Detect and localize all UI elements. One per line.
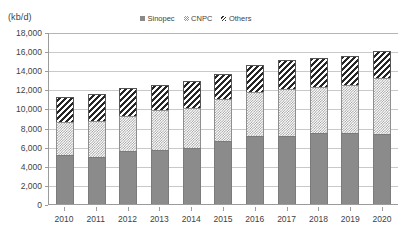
legend-swatch-others-icon <box>221 16 226 21</box>
y-axis-tick-label: 2,000 <box>0 181 42 191</box>
x-axis-tick-mark <box>64 207 65 211</box>
x-axis-tick: 2020 <box>373 207 391 224</box>
y-axis-tick-label: 4,000 <box>0 162 42 172</box>
y-axis-tick-mark <box>45 52 48 53</box>
bar-segment-cnpc <box>183 108 201 147</box>
bar-segment-cnpc <box>373 78 391 133</box>
bar-column <box>310 33 328 204</box>
bar-segment-sinopec <box>88 157 106 204</box>
bar-segment-others <box>310 58 328 87</box>
x-axis-tick: 2018 <box>309 207 327 224</box>
bar-segment-cnpc <box>278 89 296 135</box>
y-axis-tick-label: 18,000 <box>0 28 42 38</box>
bar-segment-others <box>373 51 391 79</box>
x-axis-tick: 2012 <box>119 207 137 224</box>
y-axis-tick-label: 10,000 <box>0 104 42 114</box>
y-axis-tick-label: 0 <box>0 200 42 210</box>
bar-segment-sinopec <box>278 136 296 204</box>
bar-segment-sinopec <box>119 151 137 204</box>
y-axis-tick-mark <box>45 90 48 91</box>
y-axis-tick-mark <box>45 33 48 34</box>
legend-label-sinopec: Sinopec <box>148 14 175 23</box>
bar-column <box>246 33 264 204</box>
bar-segment-sinopec <box>56 155 74 204</box>
x-axis-tick-mark <box>350 207 351 211</box>
y-axis-tick-mark <box>45 205 48 206</box>
bar-segment-sinopec <box>246 136 264 204</box>
bar-segment-cnpc <box>56 122 74 155</box>
y-axis-tick-mark <box>45 129 48 130</box>
y-axis-tick-mark <box>45 167 48 168</box>
bar-segment-others <box>119 88 137 115</box>
bar-column <box>56 33 74 204</box>
x-axis-tick-mark <box>318 207 319 211</box>
bar-segment-others <box>183 81 201 108</box>
y-axis-tick-mark <box>45 148 48 149</box>
x-axis-tick: 2015 <box>214 207 232 224</box>
x-axis-tick-mark <box>287 207 288 211</box>
bar-segment-cnpc <box>246 92 264 135</box>
x-axis-tick: 2019 <box>341 207 359 224</box>
bar-column <box>341 33 359 204</box>
bar-segment-sinopec <box>183 148 201 204</box>
bar-column <box>183 33 201 204</box>
bar-column <box>373 33 391 204</box>
bar-column <box>151 33 169 204</box>
legend-item-cnpc: CNPC <box>184 14 213 23</box>
y-axis-tick-mark <box>45 109 48 110</box>
bar-segment-others <box>278 60 296 89</box>
y-axis-unit-label: (kb/d) <box>8 12 32 22</box>
legend-item-others: Others <box>221 14 251 23</box>
legend-label-cnpc: CNPC <box>191 14 212 23</box>
bar-segment-cnpc <box>214 99 232 141</box>
x-axis-tick: 2014 <box>182 207 200 224</box>
x-axis-tick-mark <box>382 207 383 211</box>
bar-segment-cnpc <box>151 110 169 150</box>
x-axis-tick-mark <box>255 207 256 211</box>
bar-segment-cnpc <box>310 87 328 133</box>
y-axis-tick-label: 6,000 <box>0 143 42 153</box>
bar-segment-sinopec <box>310 133 328 204</box>
bar-segment-others <box>56 97 74 123</box>
x-axis-tick-mark <box>191 207 192 211</box>
bar-series-group <box>49 33 398 204</box>
bar-segment-cnpc <box>88 121 106 157</box>
bar-segment-cnpc <box>119 116 137 152</box>
bar-segment-others <box>214 74 232 100</box>
x-axis-tick-labels: 2010201120122013201420152016201720182019… <box>48 207 398 229</box>
legend-item-sinopec: Sinopec <box>140 14 175 23</box>
x-axis-tick-mark <box>96 207 97 211</box>
x-axis-tick-mark <box>128 207 129 211</box>
bar-column <box>119 33 137 204</box>
bar-segment-others <box>246 65 264 92</box>
bar-segment-sinopec <box>373 134 391 204</box>
legend-swatch-cnpc-icon <box>184 16 189 21</box>
stacked-bar-chart: (kb/d) Sinopec CNPC Others 18,00016,0001… <box>0 0 405 239</box>
y-axis-tick-label: 14,000 <box>0 66 42 76</box>
chart-legend: Sinopec CNPC Others <box>140 14 251 23</box>
y-axis-tick-label: 16,000 <box>0 47 42 57</box>
legend-swatch-sinopec-icon <box>140 16 145 21</box>
bar-segment-sinopec <box>341 133 359 204</box>
bar-column <box>278 33 296 204</box>
x-axis-tick-mark <box>159 207 160 211</box>
y-axis-tick-mark <box>45 71 48 72</box>
legend-label-others: Others <box>229 14 252 23</box>
bar-segment-others <box>151 85 169 110</box>
bar-segment-others <box>88 94 106 121</box>
bar-segment-sinopec <box>214 141 232 204</box>
x-axis-tick: 2013 <box>150 207 168 224</box>
y-axis-tick-label: 8,000 <box>0 124 42 134</box>
x-axis-tick: 2016 <box>246 207 264 224</box>
x-axis-tick: 2011 <box>87 207 105 224</box>
y-axis-tick-label: 12,000 <box>0 85 42 95</box>
y-axis-tick-mark <box>45 186 48 187</box>
x-axis-tick: 2010 <box>55 207 73 224</box>
plot-area <box>48 33 398 205</box>
x-axis-tick-mark <box>223 207 224 211</box>
bar-segment-cnpc <box>341 85 359 133</box>
bar-segment-others <box>341 56 359 85</box>
bar-column <box>88 33 106 204</box>
x-axis-tick: 2017 <box>278 207 296 224</box>
bar-column <box>214 33 232 204</box>
